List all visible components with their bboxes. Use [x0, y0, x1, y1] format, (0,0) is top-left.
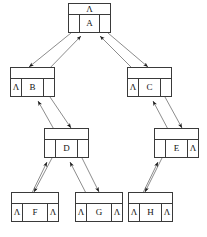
tree-node-h[interactable]: Λ H Λ: [128, 192, 173, 222]
node-c-left-pointer: Λ: [128, 79, 139, 96]
node-b-right-pointer: [43, 79, 54, 96]
node-h-left-pointer: Λ: [129, 204, 140, 221]
node-e-cells: E Λ: [155, 140, 198, 157]
node-g-left-pointer: Λ: [76, 204, 87, 221]
tree-node-d[interactable]: D: [44, 128, 89, 158]
node-g-right-pointer: Λ: [111, 204, 122, 221]
node-g-cells: Λ G Λ: [76, 204, 122, 221]
node-a-right-pointer: [99, 15, 110, 32]
node-e-right-pointer: Λ: [187, 140, 198, 157]
node-d-right-pointer: [77, 140, 88, 157]
node-f-value: F: [23, 204, 47, 221]
node-f-left-pointer: Λ: [12, 204, 23, 221]
node-c-cells: Λ C: [128, 79, 171, 96]
node-d-left-pointer: [45, 140, 56, 157]
node-b-left-pointer: Λ: [11, 79, 22, 96]
node-a-cells: A: [69, 15, 110, 32]
node-h-value: H: [140, 204, 161, 221]
node-a-parent-pointer: Λ: [69, 4, 110, 15]
node-g-value: G: [87, 204, 111, 221]
node-c-value: C: [139, 79, 160, 96]
node-e-parent-pointer: [155, 129, 198, 140]
tree-diagram-canvas: Λ A Λ B Λ C D: [0, 0, 207, 237]
node-e-value: E: [166, 140, 187, 157]
tree-node-a[interactable]: Λ A: [68, 3, 111, 33]
node-b-parent-pointer: [11, 68, 54, 79]
tree-node-c[interactable]: Λ C: [127, 67, 172, 97]
node-f-cells: Λ F Λ: [12, 204, 58, 221]
node-d-parent-pointer: [45, 129, 88, 140]
node-f-parent-pointer: [12, 193, 58, 204]
node-c-right-pointer: [160, 79, 171, 96]
node-a-value: A: [80, 15, 99, 32]
tree-node-e[interactable]: E Λ: [154, 128, 199, 158]
node-d-value: D: [56, 140, 77, 157]
node-a-left-pointer: [69, 15, 80, 32]
node-b-cells: Λ B: [11, 79, 54, 96]
node-h-cells: Λ H Λ: [129, 204, 172, 221]
node-g-parent-pointer: [76, 193, 122, 204]
node-d-cells: D: [45, 140, 88, 157]
node-f-right-pointer: Λ: [47, 204, 58, 221]
node-b-value: B: [22, 79, 43, 96]
tree-node-f[interactable]: Λ F Λ: [11, 192, 59, 222]
node-h-right-pointer: Λ: [161, 204, 172, 221]
node-e-left-pointer: [155, 140, 166, 157]
tree-node-g[interactable]: Λ G Λ: [75, 192, 123, 222]
tree-node-b[interactable]: Λ B: [10, 67, 55, 97]
node-h-parent-pointer: [129, 193, 172, 204]
node-c-parent-pointer: [128, 68, 171, 79]
